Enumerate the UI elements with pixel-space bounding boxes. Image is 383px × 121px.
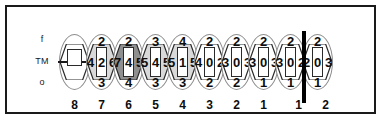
tooth-number-label: 1 (248, 95, 279, 115)
tooth-cell[interactable]: 22031 (302, 31, 333, 93)
missing-tooth-box (67, 49, 82, 66)
tooth-chain: 2426327454354534515324022230322303123021… (59, 31, 329, 93)
tooth-number-label: 2 (310, 95, 341, 115)
row-label-tm: TM (35, 57, 48, 66)
periodontal-chart-figure: f TM o 242632745435453451532402223032230… (0, 0, 383, 121)
arch-midline-divider (302, 31, 306, 103)
probing-depth-facial: 2 (302, 35, 333, 48)
chart-frame: f TM o 242632745435453451532402223032230… (5, 5, 376, 114)
tooth-number-row: 8765432112 (59, 95, 337, 115)
row-label-group: f TM o (29, 35, 55, 87)
probing-depth-distal: 3 (323, 56, 334, 69)
row-label-o: o (39, 78, 44, 87)
row-label-f: f (41, 35, 44, 44)
probing-depth-occlusal: 1 (302, 76, 333, 89)
